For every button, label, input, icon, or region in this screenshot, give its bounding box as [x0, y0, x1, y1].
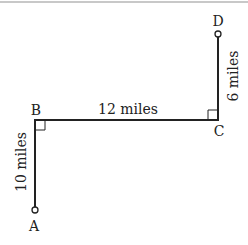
- right-angle-b-icon: [35, 120, 45, 130]
- point-d-circle-icon: [215, 31, 221, 37]
- segment-label-bc: 12 miles: [98, 101, 158, 117]
- point-label-a: A: [28, 218, 40, 234]
- point-label-d: D: [212, 13, 223, 29]
- diagram-frame: B A C D 12 miles 10 miles 6 miles: [0, 0, 248, 245]
- point-label-c: C: [214, 123, 225, 139]
- path-diagram: B A C D 12 miles 10 miles 6 miles: [0, 0, 248, 245]
- point-a-circle-icon: [32, 207, 38, 213]
- right-angle-c-icon: [208, 110, 218, 120]
- segment-label-ab: 10 miles: [13, 132, 29, 192]
- path-line: [35, 37, 218, 207]
- point-label-b: B: [31, 102, 41, 118]
- segment-label-cd: 6 miles: [225, 50, 241, 101]
